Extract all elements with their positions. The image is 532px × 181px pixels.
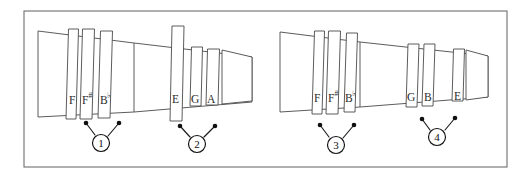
pipe-end-cap [222,50,252,104]
note-label-f: F [314,92,320,104]
figure-canvas: FF#B♭EGA12FF#B♭GBE34 [0,0,532,181]
callout-leader-dot-3-1 [352,123,357,128]
note-label-a: A [207,93,216,105]
note-accidental-flat: ♭ [107,91,111,100]
right-tapered-pipe: FF#B♭GBE34 [280,31,488,154]
callout-leader-line-2-1 [204,126,215,137]
left-tapered-pipe: FF#B♭EGA12 [38,26,252,153]
callout-leader-dot-1-0 [84,121,89,126]
callout-3[interactable]: 3 [318,123,357,154]
callout-leader-dot-4-1 [453,116,458,121]
note-label-e: E [454,90,461,102]
callout-leader-line-3-1 [343,125,354,138]
note-label-f: F [69,94,75,106]
note-accidental-sharp: # [89,91,93,100]
note-label-g: G [407,91,415,103]
note-accidental-sharp: # [335,89,339,98]
callout-number-4: 4 [434,131,440,143]
note-accidental-flat: ♭ [352,89,356,98]
callout-leader-dot-4-0 [420,117,425,122]
note-label-e: E [172,93,179,105]
callout-leader-dot-3-0 [318,123,323,128]
callout-2[interactable]: 2 [178,124,218,153]
note-label-g: G [191,93,199,105]
callout-number-3: 3 [333,139,339,151]
callout-leader-line-4-1 [445,118,455,130]
callout-number-1: 1 [98,137,104,149]
instrument-diagram: FF#B♭EGA12FF#B♭GBE34 [0,0,532,181]
note-label-f#: F [82,94,88,106]
note-label-b: B [424,91,432,103]
callout-leader-dot-2-1 [213,124,218,129]
callout-leader-line-1-1 [108,123,119,136]
callout-number-2: 2 [194,138,200,150]
callout-leader-dot-1-1 [117,121,122,126]
note-label-f#: F [328,92,334,104]
callout-1[interactable]: 1 [84,121,122,152]
key-slab-e-3[interactable] [170,26,184,121]
callout-leader-dot-2-0 [178,124,183,129]
callout-4[interactable]: 4 [420,116,458,146]
pipe-end-cap [466,50,488,100]
